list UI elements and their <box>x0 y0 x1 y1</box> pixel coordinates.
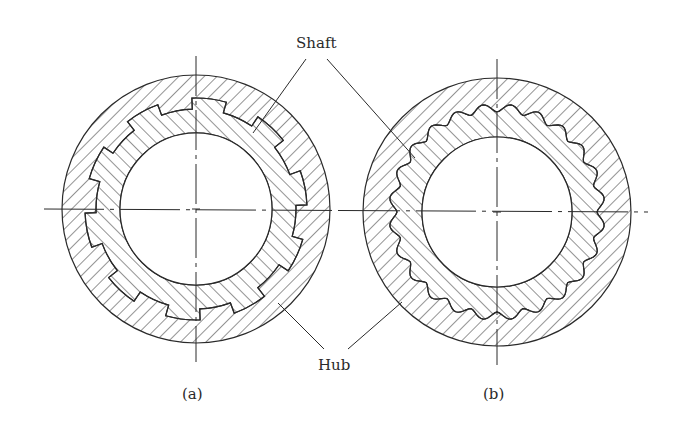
caption-b: (b) <box>483 387 504 402</box>
hub-leader-line <box>278 303 324 349</box>
shaft-label: Shaft <box>296 36 336 51</box>
hub-leader-line <box>348 302 402 349</box>
shaft-leader-line <box>327 59 415 158</box>
caption-a: (a) <box>182 387 203 402</box>
hub-label: Hub <box>318 358 350 373</box>
